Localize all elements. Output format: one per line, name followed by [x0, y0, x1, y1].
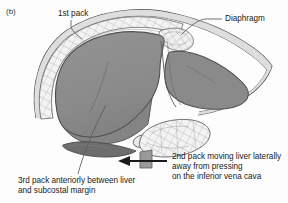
panel-letter: (b) [6, 7, 16, 17]
third-pack-shape [63, 142, 136, 157]
lateral-body-wall [140, 150, 152, 168]
label-third-pack: 3rd pack anteriorly between liver and su… [18, 176, 135, 196]
liver-left-lobe [165, 51, 249, 109]
figure-panel-b: (b) 1st pack Diaphragm 2nd pack moving l… [0, 0, 288, 203]
label-second-pack: 2nd pack moving liver laterally away fro… [172, 152, 281, 183]
label-first-pack: 1st pack [58, 9, 88, 19]
label-diaphragm: Diaphragm [225, 14, 265, 24]
